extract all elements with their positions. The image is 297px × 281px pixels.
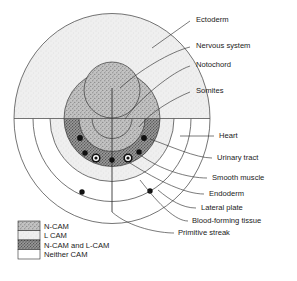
label-notochord: Notochord bbox=[196, 60, 231, 69]
legend-label-n-cam-and-l-cam: N-CAM and L-CAM bbox=[44, 241, 109, 250]
marker-urinary-tract-left-core bbox=[94, 156, 97, 159]
marker-center-dot bbox=[109, 157, 114, 162]
label-heart: Heart bbox=[219, 131, 238, 140]
legend-label-neither-cam: Neither CAM bbox=[44, 250, 87, 259]
marker-heart-left bbox=[77, 135, 83, 141]
legend-label-n-cam: N-CAM bbox=[44, 222, 69, 231]
marker-smooth-muscle-left bbox=[82, 150, 87, 155]
marker-urinary-tract-right-core bbox=[126, 156, 129, 159]
label-nervous-system: Nervous system bbox=[196, 41, 250, 50]
label-primitive-streak: Primitive streak bbox=[178, 228, 230, 237]
legend-swatch-l-cam bbox=[18, 231, 40, 241]
label-endoderm: Endoderm bbox=[209, 189, 244, 198]
label-ectoderm: Ectoderm bbox=[196, 15, 229, 24]
label-somites: Somites bbox=[196, 86, 224, 95]
marker-smooth-muscle-right bbox=[136, 149, 141, 154]
legend-label-l-cam: L CAM bbox=[44, 231, 67, 240]
label-blood-forming-tissue: Blood-forming tissue bbox=[192, 216, 261, 225]
legend-swatch-n-cam bbox=[18, 221, 40, 231]
label-smooth-muscle: Smooth muscle bbox=[212, 173, 264, 182]
legend-swatch-n-cam-and-l-cam bbox=[18, 240, 40, 250]
label-lateral-plate: Lateral plate bbox=[201, 203, 243, 212]
marker-blood-forming-left bbox=[79, 189, 84, 194]
label-urinary-tract: Urinary tract bbox=[217, 153, 259, 162]
legend-swatch-neither-cam bbox=[18, 250, 40, 260]
marker-heart-right bbox=[141, 135, 147, 141]
cam-expression-diagram: Ectoderm Nervous system Notochord Somite… bbox=[0, 0, 297, 281]
